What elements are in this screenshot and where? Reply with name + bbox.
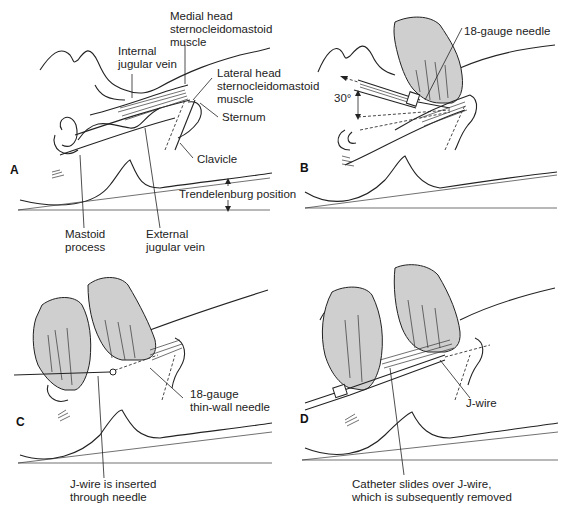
panel-letter-c: C	[16, 415, 25, 429]
panel-d: J-wire D Catheter slides over J-wire, wh…	[290, 260, 571, 515]
label-medial-head: Medial head sternocleidomastoid muscle	[170, 10, 272, 49]
label-j-wire: J-wire	[466, 397, 497, 410]
label-18-gauge-needle: 18-gauge needle	[464, 25, 550, 38]
panel-letter-b: B	[300, 161, 309, 175]
panel-a: Medial head sternocleidomastoid muscle I…	[0, 0, 290, 260]
panel-letter-a: A	[10, 163, 19, 177]
label-mastoid-process: Mastoid process	[65, 228, 105, 254]
label-internal-jugular-vein: Internal jugular vein	[118, 45, 177, 71]
panel-b-illustration	[290, 0, 571, 260]
label-angle-30: 30°	[334, 92, 351, 105]
label-18-gauge-thin-wall-needle: 18-gauge thin-wall needle	[190, 388, 270, 414]
panel-c: 18-gauge thin-wall needle C J-wire is in…	[0, 260, 290, 515]
label-trendelenburg: Trendelenburg position	[179, 188, 296, 201]
panel-b: 18-gauge needle 30° B	[290, 0, 571, 260]
label-external-jugular-vein: External jugular vein	[146, 228, 205, 254]
panel-letter-d: D	[300, 412, 309, 426]
panel-d-illustration	[290, 260, 571, 515]
label-sternum: Sternum	[222, 111, 265, 124]
label-clavicle: Clavicle	[197, 153, 237, 166]
label-j-wire-inserted: J-wire is inserted through needle	[70, 478, 156, 504]
label-catheter-slides: Catheter slides over J-wire, which is su…	[352, 478, 512, 504]
